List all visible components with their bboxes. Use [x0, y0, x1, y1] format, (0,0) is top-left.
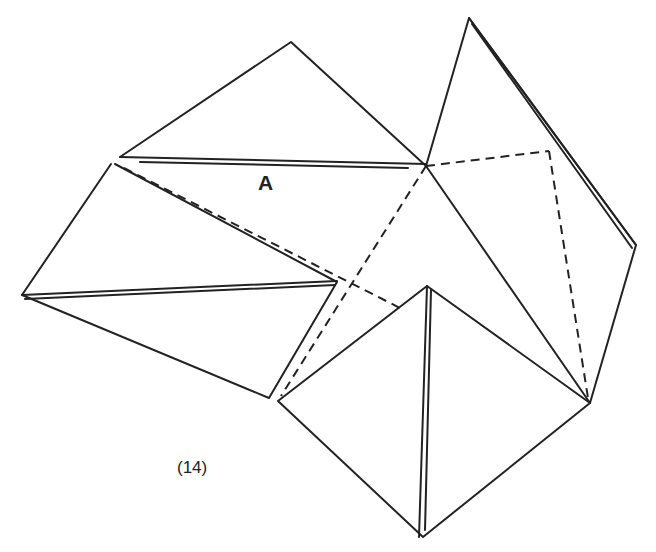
origami-fold-diagram — [0, 0, 656, 552]
left-flap — [22, 164, 337, 398]
top-left-triangle-flap — [120, 42, 426, 168]
bottom-diamond-flap — [278, 286, 590, 537]
top-right-point-flap — [426, 18, 636, 403]
step-number-label: (14) — [177, 458, 207, 478]
hidden-fold-lines — [124, 151, 588, 398]
region-label-a: A — [258, 171, 273, 195]
